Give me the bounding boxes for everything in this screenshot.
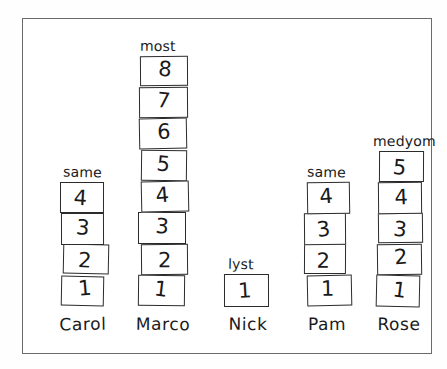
block[interactable]: 4 — [378, 181, 422, 213]
chart-canvas: 1234sameCarol12345678mostMarco1lystNick1… — [0, 0, 447, 369]
block-number: 4 — [394, 187, 408, 208]
comparison-label-rose: medyom — [373, 133, 436, 149]
block-number: 2 — [394, 247, 409, 269]
block-number: 3 — [393, 219, 409, 241]
block[interactable]: 2 — [377, 244, 423, 276]
stack-rose[interactable]: 12345medyomRose — [23, 19, 431, 353]
chart-frame: 1234sameCarol12345678mostMarco1lystNick1… — [22, 18, 432, 354]
category-label-rose: Rose — [362, 314, 436, 334]
block-number: 1 — [392, 279, 408, 302]
block[interactable]: 3 — [378, 213, 423, 243]
block-number: 5 — [392, 157, 407, 179]
block[interactable]: 1 — [375, 274, 420, 307]
block[interactable]: 5 — [379, 151, 424, 182]
